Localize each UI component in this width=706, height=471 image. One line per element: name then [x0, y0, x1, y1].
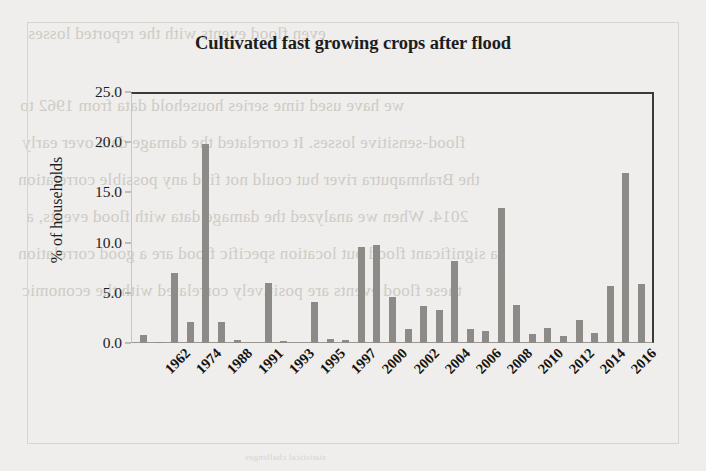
bar-slot	[214, 92, 230, 343]
bar	[327, 339, 334, 343]
bar-slot	[525, 92, 541, 343]
bar	[560, 336, 567, 343]
plot-area: 25.020.015.010.05.00.0	[131, 92, 654, 343]
bar	[529, 334, 536, 343]
bar	[513, 305, 520, 343]
bar-slot	[634, 92, 650, 343]
bar	[451, 261, 458, 343]
bar	[342, 340, 349, 343]
bar	[234, 340, 241, 343]
bar-series	[131, 92, 652, 343]
x-axis-ticks: 1962197419881991199319951997200020022004…	[131, 345, 654, 415]
bar-slot	[540, 92, 556, 343]
bar	[420, 306, 427, 343]
bar-slot	[291, 92, 307, 343]
x-tick-label: 1991	[255, 345, 288, 378]
bar	[202, 144, 209, 343]
bar	[622, 173, 629, 343]
x-tick-label: 1995	[317, 345, 350, 378]
bar-slot	[602, 92, 618, 343]
x-tick-label: 2010	[534, 345, 567, 378]
x-tick-label: 1988	[223, 345, 256, 378]
bar-slot	[167, 92, 183, 343]
bar	[311, 302, 318, 343]
bar	[156, 342, 163, 343]
x-tick-label: 1993	[286, 345, 319, 378]
x-tick-label: 2012	[565, 345, 598, 378]
y-axis-title: % of households	[48, 0, 66, 120]
bar-slot	[618, 92, 634, 343]
x-tick-label: 1997	[348, 345, 381, 378]
bar	[389, 297, 396, 343]
bar-slot	[307, 92, 323, 343]
x-tick-label: 2004	[441, 345, 474, 378]
bar	[280, 341, 287, 343]
bar	[405, 329, 412, 343]
x-tick-label: 2002	[410, 345, 443, 378]
bleed-line: statistical challenges	[245, 452, 326, 462]
bar-slot	[260, 92, 276, 343]
bar	[482, 331, 489, 343]
bar-slot	[416, 92, 432, 343]
x-tick-label: 2008	[503, 345, 536, 378]
x-tick-label: 2006	[472, 345, 505, 378]
bar-slot	[152, 92, 168, 343]
bar	[140, 335, 147, 343]
bar-slot	[245, 92, 261, 343]
x-tick-label: 2014	[597, 345, 630, 378]
bar	[218, 322, 225, 343]
bar-slot	[385, 92, 401, 343]
y-axis-title-label: % of households	[48, 120, 66, 300]
bar	[436, 310, 443, 343]
bar-slot	[431, 92, 447, 343]
bar-slot	[229, 92, 245, 343]
chart-title: Cultivated fast growing crops after floo…	[0, 33, 706, 54]
bar-slot	[354, 92, 370, 343]
bar-slot	[183, 92, 199, 343]
bar	[576, 320, 583, 343]
bar	[265, 283, 272, 343]
bar-slot	[462, 92, 478, 343]
bar-slot	[509, 92, 525, 343]
bar-slot	[478, 92, 494, 343]
bar	[607, 286, 614, 343]
bar-slot	[447, 92, 463, 343]
bar-slot	[556, 92, 572, 343]
bar	[187, 322, 194, 343]
bar-slot	[571, 92, 587, 343]
bar-slot	[494, 92, 510, 343]
bar	[373, 245, 380, 343]
bar-slot	[369, 92, 385, 343]
bar	[544, 328, 551, 343]
bar-slot	[338, 92, 354, 343]
x-tick-label: 2000	[379, 345, 412, 378]
bar	[498, 208, 505, 343]
bar-slot	[276, 92, 292, 343]
x-tick-label: 1974	[192, 345, 225, 378]
bar-slot	[400, 92, 416, 343]
bar	[591, 333, 598, 343]
bar	[638, 284, 645, 343]
bar	[467, 329, 474, 343]
bar-slot	[587, 92, 603, 343]
bar	[358, 247, 365, 343]
bar-slot	[323, 92, 339, 343]
bar-slot	[198, 92, 214, 343]
bar	[171, 273, 178, 343]
bar-slot	[136, 92, 152, 343]
x-tick-label: 1962	[161, 345, 194, 378]
